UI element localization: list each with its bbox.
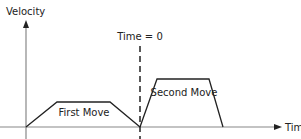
x-axis-arrow-icon	[274, 124, 282, 130]
velocity-profile-diagram: Velocity Time Time = 0 First Move Second…	[0, 0, 301, 139]
time-zero-label: Time = 0	[116, 31, 163, 42]
first-move-label: First Move	[58, 107, 109, 118]
y-axis	[23, 20, 29, 139]
second-move-label: Second Move	[151, 87, 218, 98]
y-axis-arrow-icon	[23, 20, 29, 28]
x-axis-label: Time	[284, 122, 301, 133]
y-axis-label: Velocity	[6, 6, 45, 17]
